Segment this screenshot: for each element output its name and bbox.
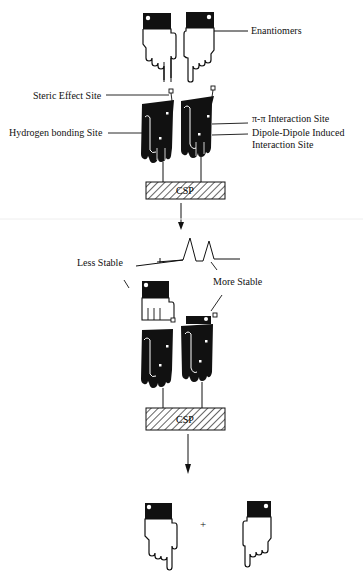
selector-glove-right [181,96,214,158]
label-steric-effect-site: Steric Effect Site [33,90,101,101]
enantiomer-hand-right [184,12,214,82]
csp-top-label: CSP [176,185,194,196]
label-pi-pi-interaction-site: π-π Interaction Site [252,113,329,124]
label-hydrogen-bonding-site: Hydrogen bonding Site [9,127,102,138]
more-stable-complex [181,313,217,382]
label-less-stable: Less Stable [77,257,123,268]
steric-site-marker [169,89,173,93]
label-enantiomers: Enantiomers [251,25,302,36]
chromatogram [136,238,240,266]
enantiomer-hand-left [143,13,176,82]
separated-hand-left [145,503,177,570]
label-more-stable: More Stable [213,276,262,287]
label-dipole-line2: Interaction Site [252,139,313,150]
chiral-recognition-diagram: CSP CSP [0,0,363,577]
separated-hand-right [243,501,271,567]
plus-sign: + [200,519,206,530]
less-stable-complex [141,281,175,388]
csp-bottom-label: CSP [176,414,194,425]
label-dipole-line1: Dipole-Dipole Induced [252,127,344,138]
selector-glove-left [141,100,174,163]
